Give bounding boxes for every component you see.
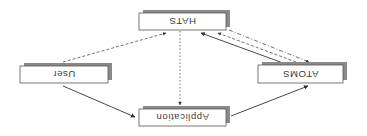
arrow-user-to-hats [63, 33, 166, 62]
arrow-hats-to-atoms [229, 30, 309, 62]
arrow-atoms-to-hats [201, 33, 283, 63]
nodes-layer: HATSUserATOMSApplication [20, 10, 347, 126]
node-application: Application [139, 106, 230, 126]
node-atoms: ATOMS [258, 62, 347, 83]
node-label-user: User [53, 69, 75, 80]
arrow-user-to-application [63, 86, 135, 117]
node-label-hats: HATS [169, 16, 196, 27]
node-label-atoms: ATOMS [283, 69, 319, 80]
architecture-diagram: HATSUserATOMSApplication [0, 0, 367, 136]
node-user: User [20, 63, 112, 83]
node-label-application: Application [156, 112, 209, 123]
node-hats: HATS [139, 10, 230, 30]
arrow-application-to-atoms [231, 86, 308, 116]
arrow-atoms-to-hats [218, 33, 296, 62]
